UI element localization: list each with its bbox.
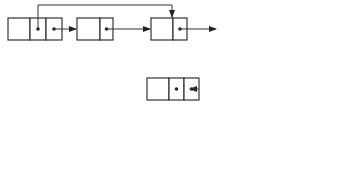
header-node [8,18,62,40]
list-first [8,5,216,40]
list-temp [147,78,199,100]
linked-list-diagram [0,0,347,169]
